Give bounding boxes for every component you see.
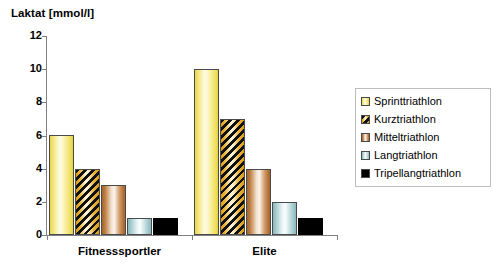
y-tick-label: 0 — [12, 229, 42, 240]
y-axis-title: Laktat [mmol/l] — [11, 7, 94, 19]
legend-item-label: Mitteltriathlon — [374, 132, 439, 143]
legend-swatch-icon — [361, 169, 370, 178]
y-tick: 8 — [0, 96, 42, 107]
legend-swatch-icon — [361, 97, 370, 106]
legend-item[interactable]: Langtriathlon — [361, 146, 486, 164]
y-tick-mark — [42, 36, 46, 37]
y-tick: 0 — [0, 229, 42, 240]
lactate-bar-chart: Laktat [mmol/l] 024681012 Fitnesssportle… — [0, 0, 494, 278]
y-tick: 12 — [0, 30, 42, 41]
x-tick-mark — [192, 236, 193, 240]
x-tick-mark — [337, 236, 338, 240]
legend-item-label: Langtriathlon — [374, 150, 438, 161]
legend-item[interactable]: Kurztriathlon — [361, 110, 486, 128]
x-category-label: Fitnesssportler — [47, 245, 192, 257]
y-tick-mark — [42, 169, 46, 170]
y-tick-label: 6 — [12, 130, 42, 141]
chart-legend: SprinttriathlonKurztriathlonMitteltriath… — [355, 88, 491, 187]
y-tick-mark — [42, 235, 46, 236]
y-tick: 6 — [0, 130, 42, 141]
x-tick-mark — [47, 236, 48, 240]
bar — [272, 202, 297, 235]
legend-swatch-icon — [361, 133, 370, 142]
y-tick-label: 8 — [12, 96, 42, 107]
bar — [246, 169, 271, 235]
legend-item[interactable]: Tripellangtriathlon — [361, 164, 486, 182]
y-tick-mark — [42, 102, 46, 103]
bar — [153, 218, 178, 235]
bar — [49, 135, 74, 235]
legend-item[interactable]: Mitteltriathlon — [361, 128, 486, 146]
y-tick-mark — [42, 69, 46, 70]
y-tick-mark — [42, 136, 46, 137]
y-tick-label: 12 — [12, 30, 42, 41]
plot-bars — [47, 36, 337, 235]
legend-item-label: Kurztriathlon — [374, 114, 436, 125]
bar — [127, 218, 152, 235]
bar — [220, 119, 245, 235]
y-tick-label: 4 — [12, 163, 42, 174]
legend-swatch-icon — [361, 115, 370, 124]
x-category-label: Elite — [192, 245, 337, 257]
y-tick-label: 10 — [12, 63, 42, 74]
y-tick: 2 — [0, 196, 42, 207]
bar — [298, 218, 323, 235]
legend-item-label: Tripellangtriathlon — [374, 168, 461, 179]
y-tick: 4 — [0, 163, 42, 174]
y-tick: 10 — [0, 63, 42, 74]
bar — [194, 69, 219, 235]
bar — [101, 185, 126, 235]
legend-item-label: Sprinttriathlon — [374, 96, 442, 107]
y-tick-label: 2 — [12, 196, 42, 207]
legend-swatch-icon — [361, 151, 370, 160]
legend-item[interactable]: Sprinttriathlon — [361, 92, 486, 110]
y-tick-mark — [42, 202, 46, 203]
bar — [75, 169, 100, 235]
